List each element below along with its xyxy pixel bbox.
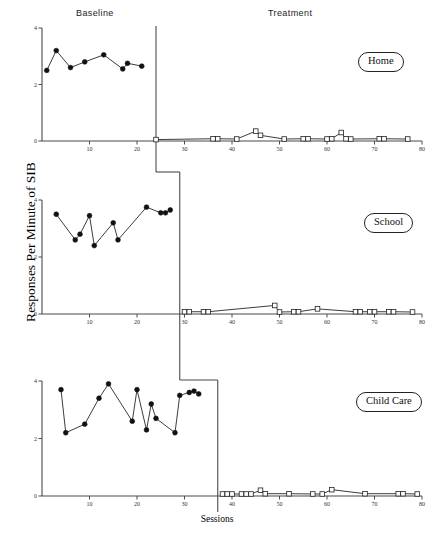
data-point-treatment xyxy=(211,136,216,141)
data-point-treatment xyxy=(410,310,415,315)
data-point-baseline xyxy=(154,416,159,421)
data-point-baseline xyxy=(59,387,64,392)
data-point-treatment xyxy=(263,491,268,496)
y-tick-label: 2 xyxy=(34,82,37,88)
data-point-treatment xyxy=(201,309,206,314)
data-point-baseline xyxy=(173,430,178,435)
data-point-treatment xyxy=(367,309,372,314)
data-point-treatment xyxy=(310,492,315,497)
y-tick-label: 2 xyxy=(34,254,37,260)
x-tick-label: 80 xyxy=(419,501,425,507)
data-point-baseline xyxy=(158,210,163,215)
data-point-treatment xyxy=(249,492,254,497)
x-tick-label: 60 xyxy=(324,501,330,507)
multiple-baseline-figure: Baseline Treatment Responses Per Minute … xyxy=(0,0,434,541)
data-point-baseline xyxy=(116,238,121,243)
data-point-treatment xyxy=(187,309,192,314)
y-tick-label: 4 xyxy=(34,197,37,203)
x-tick-label: 50 xyxy=(277,146,283,152)
series-line-baseline xyxy=(47,51,142,71)
data-point-baseline xyxy=(44,68,49,73)
y-tick-label: 0 xyxy=(34,138,37,144)
data-point-baseline xyxy=(92,243,97,248)
x-tick-label: 70 xyxy=(372,146,378,152)
data-point-treatment xyxy=(329,136,334,141)
x-tick-label: 30 xyxy=(182,501,188,507)
data-point-treatment xyxy=(348,137,353,142)
data-point-baseline xyxy=(177,393,182,398)
data-point-treatment xyxy=(405,137,410,142)
data-point-treatment xyxy=(239,492,244,497)
x-tick-label: 10 xyxy=(87,146,93,152)
x-tick-label: 40 xyxy=(229,319,235,325)
data-point-baseline xyxy=(187,390,192,395)
data-point-treatment xyxy=(353,309,358,314)
data-point-baseline xyxy=(168,208,173,213)
x-tick-label: 70 xyxy=(372,501,378,507)
data-point-treatment xyxy=(253,129,258,134)
data-point-baseline xyxy=(125,61,130,66)
data-point-treatment xyxy=(272,303,277,308)
data-point-baseline xyxy=(139,64,144,69)
data-point-baseline xyxy=(54,212,59,217)
data-point-baseline xyxy=(130,419,135,424)
data-point-treatment xyxy=(315,307,320,312)
data-point-treatment xyxy=(225,492,230,497)
data-point-baseline xyxy=(192,389,197,394)
data-point-treatment xyxy=(386,309,391,314)
data-point-baseline xyxy=(106,381,111,386)
data-point-treatment xyxy=(358,309,363,314)
data-point-treatment xyxy=(296,309,301,314)
data-point-treatment xyxy=(401,491,406,496)
data-point-baseline xyxy=(82,422,87,427)
x-tick-label: 30 xyxy=(182,319,188,325)
data-point-treatment xyxy=(339,130,344,135)
data-point-baseline xyxy=(97,396,102,401)
data-point-baseline xyxy=(120,67,125,72)
data-point-treatment xyxy=(415,492,420,497)
data-point-treatment xyxy=(215,136,220,141)
data-point-baseline xyxy=(54,48,59,53)
y-tick-label: 0 xyxy=(34,311,37,317)
data-point-treatment xyxy=(329,487,334,492)
x-tick-label: 50 xyxy=(277,319,283,325)
y-tick-label: 4 xyxy=(34,378,37,384)
data-point-treatment xyxy=(306,136,311,141)
x-tick-label: 30 xyxy=(182,146,188,152)
data-point-treatment xyxy=(206,309,211,314)
data-point-treatment xyxy=(230,492,235,497)
data-point-treatment xyxy=(377,136,382,141)
data-point-baseline xyxy=(63,430,68,435)
y-tick-label: 2 xyxy=(34,436,37,442)
x-tick-label: 70 xyxy=(372,319,378,325)
data-point-treatment xyxy=(258,488,263,493)
data-point-baseline xyxy=(196,392,201,397)
data-point-treatment xyxy=(282,137,287,142)
data-point-treatment xyxy=(372,309,377,314)
data-point-treatment xyxy=(154,137,159,142)
data-point-baseline xyxy=(82,60,87,65)
data-point-baseline xyxy=(144,427,149,432)
data-point-treatment xyxy=(301,136,306,141)
data-point-treatment xyxy=(220,492,225,497)
data-point-baseline xyxy=(78,232,83,237)
data-point-baseline xyxy=(101,52,106,57)
x-tick-label: 80 xyxy=(419,319,425,325)
data-point-treatment xyxy=(182,309,187,314)
x-tick-label: 40 xyxy=(229,501,235,507)
y-tick-label: 0 xyxy=(34,493,37,499)
plot-canvas: 1020304050607080024102030405060708002410… xyxy=(0,0,434,541)
data-point-treatment xyxy=(244,492,249,497)
x-tick-label: 10 xyxy=(87,501,93,507)
panel-home: 1020304050607080024 xyxy=(34,25,425,172)
data-point-treatment xyxy=(396,491,401,496)
data-point-treatment xyxy=(258,133,263,138)
x-tick-label: 20 xyxy=(134,319,140,325)
data-point-baseline xyxy=(87,213,92,218)
x-tick-label: 60 xyxy=(324,319,330,325)
panel-school: 1020304050607080024 xyxy=(34,172,425,380)
data-point-treatment xyxy=(277,310,282,315)
data-point-treatment xyxy=(234,137,239,142)
panel-child-care: 1020304050607080024 xyxy=(34,378,425,512)
data-point-treatment xyxy=(320,492,325,497)
